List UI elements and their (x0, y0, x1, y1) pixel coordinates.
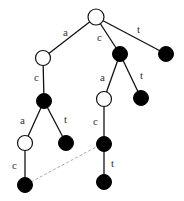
terminal-node (37, 94, 52, 109)
terminal-node (18, 178, 33, 193)
edge-label: c (34, 72, 39, 83)
trie-edge (96, 17, 166, 54)
edge-label: c (93, 116, 98, 127)
edge-label: c (12, 160, 17, 171)
terminal-node (97, 137, 112, 152)
edge-label: a (63, 27, 68, 38)
edge-label: t (140, 70, 143, 81)
internal-node (18, 136, 33, 151)
trie-graph (0, 0, 184, 201)
edge-label: c (97, 32, 102, 43)
suffix-link (31, 146, 98, 182)
edge-label: a (100, 72, 105, 83)
edge-label: t (137, 24, 140, 35)
edge-label: t (111, 158, 114, 169)
internal-node (97, 92, 112, 107)
internal-node (88, 9, 104, 25)
edge-label: a (20, 115, 25, 126)
internal-node (36, 51, 51, 66)
terminal-node (97, 175, 112, 190)
trie-edge (43, 17, 96, 58)
terminal-node (159, 47, 174, 62)
trie-diagram: actcatatcct (0, 0, 184, 201)
terminal-node (59, 136, 74, 151)
edge-label: t (64, 114, 67, 125)
terminal-node (113, 47, 128, 62)
terminal-node (134, 91, 149, 106)
